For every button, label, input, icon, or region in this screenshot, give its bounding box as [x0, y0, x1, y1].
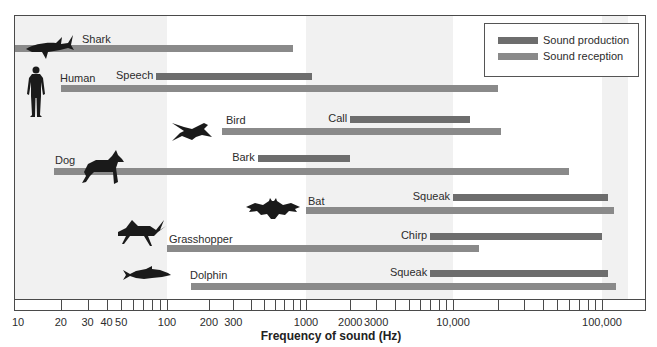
bird-production-label: Call	[270, 112, 347, 124]
x-axis-tick-label: 10	[12, 316, 24, 328]
x-axis-tick	[430, 300, 431, 311]
x-axis-tick	[409, 300, 410, 311]
x-axis-tick	[284, 300, 285, 311]
legend: Sound production Sound reception	[484, 23, 639, 77]
bat-reception-bar	[306, 207, 614, 214]
x-axis-tick	[152, 300, 153, 311]
dolphin-label: Dolphin	[190, 269, 227, 281]
x-axis-tick-label: 30	[81, 316, 93, 328]
bird-icon	[170, 117, 214, 143]
legend-reception-swatch	[498, 53, 538, 60]
dog-label: Dog	[55, 154, 75, 166]
bat-production-label: Squeak	[373, 190, 450, 202]
x-axis-tick	[121, 300, 122, 311]
x-axis-tick	[569, 300, 570, 311]
x-axis-tick	[133, 300, 134, 311]
human-icon	[24, 66, 48, 118]
bat-icon	[245, 197, 301, 221]
x-axis-tick-label: 100,000	[582, 316, 622, 328]
dolphin-production-bar	[430, 270, 608, 277]
human-reception-bar	[61, 85, 498, 92]
x-axis-tick-label: 1000	[294, 316, 318, 328]
x-axis-tick	[233, 300, 234, 311]
x-axis-tick-label: 100	[158, 316, 176, 328]
x-axis-tick	[579, 300, 580, 311]
dog-production-label: Bark	[178, 151, 255, 163]
x-axis-tick	[524, 300, 525, 311]
x-axis-tick	[143, 300, 144, 311]
x-axis-tick-label: 3000	[364, 316, 388, 328]
x-axis-tick-label: 40	[100, 316, 112, 328]
bat-production-bar	[453, 194, 608, 201]
x-axis-tick	[264, 300, 265, 311]
x-axis-tick	[439, 300, 440, 311]
sound-frequency-chart: SharkHumanSpeechBirdCallDogBarkBatSqueak…	[0, 0, 657, 347]
x-axis-tick	[588, 300, 589, 311]
x-axis-strip	[14, 299, 646, 311]
x-axis-tick	[595, 300, 596, 311]
grasshopper-production-bar	[430, 233, 602, 240]
x-axis-title: Frequency of sound (Hz)	[0, 329, 657, 343]
x-axis-tick	[300, 300, 301, 311]
bird-reception-bar	[222, 128, 501, 135]
x-axis-tick	[160, 300, 161, 311]
x-axis-tick-label: 2000	[338, 316, 362, 328]
legend-production-label: Sound production	[543, 34, 629, 46]
dolphin-reception-bar	[191, 283, 616, 290]
grasshopper-production-label: Chirp	[350, 229, 427, 241]
x-axis-tick	[167, 300, 168, 311]
grasshopper-icon	[116, 218, 168, 250]
x-axis-tick-label: 300	[224, 316, 242, 328]
x-axis-tick	[306, 300, 307, 311]
x-axis-tick	[395, 300, 396, 311]
legend-production-swatch	[498, 37, 538, 44]
x-axis-tick-label: 10,000	[436, 316, 470, 328]
x-axis-tick	[446, 300, 447, 311]
bird-label: Bird	[226, 114, 246, 126]
x-axis-tick	[88, 300, 89, 311]
shark-label: Shark	[82, 33, 111, 45]
shark-icon	[24, 33, 76, 61]
bat-label: Bat	[308, 195, 325, 207]
x-axis-tick	[61, 300, 62, 311]
x-axis-tick	[275, 300, 276, 311]
legend-reception-label: Sound reception	[543, 50, 623, 62]
x-axis-tick	[557, 300, 558, 311]
x-axis-tick	[602, 300, 603, 311]
x-axis-tick	[543, 300, 544, 311]
human-production-bar	[156, 73, 312, 80]
dog-reception-bar	[54, 168, 569, 175]
x-axis-tick	[107, 300, 108, 311]
dog-production-bar	[258, 155, 350, 162]
bird-production-bar	[350, 116, 470, 123]
x-axis-tick	[453, 300, 454, 311]
x-axis-tick	[376, 300, 377, 311]
x-axis-tick	[209, 300, 210, 311]
x-axis-tick-label: 200	[200, 316, 218, 328]
dog-icon	[80, 150, 126, 186]
x-axis-tick	[420, 300, 421, 311]
x-axis-tick	[350, 300, 351, 311]
x-axis-tick-label: 20	[55, 316, 67, 328]
grasshopper-reception-bar	[167, 245, 479, 252]
dolphin-production-label: Squeak	[350, 266, 427, 278]
x-axis-tick	[293, 300, 294, 311]
x-axis-tick	[498, 300, 499, 311]
human-production-label: Speech	[76, 69, 153, 81]
x-axis-tick	[251, 300, 252, 311]
dolphin-icon	[122, 266, 172, 282]
x-axis-tick-label: 50	[115, 316, 127, 328]
grasshopper-label: Grasshopper	[169, 233, 233, 245]
